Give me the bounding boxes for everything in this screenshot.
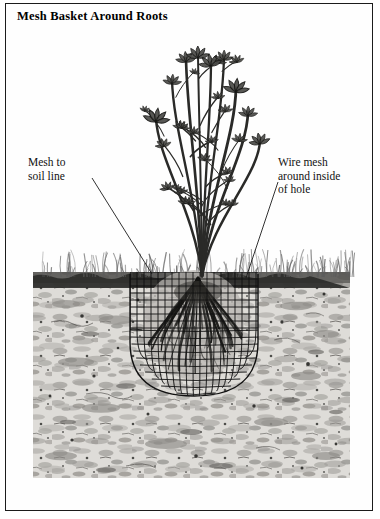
label-line: Mesh to — [28, 156, 65, 170]
label-line: Wire mesh — [278, 156, 340, 170]
label-line: around inside — [278, 170, 340, 184]
leader-line-mesh-to-soil — [92, 178, 152, 274]
label-mesh-to-soil-line: Mesh to soil line — [28, 156, 65, 183]
leader-line-wire-mesh — [246, 182, 278, 278]
label-wire-mesh-around-inside-of-hole: Wire mesh around inside of hole — [278, 156, 340, 197]
illustration — [6, 4, 372, 510]
label-line: soil line — [28, 170, 65, 184]
label-line: of hole — [278, 183, 340, 197]
shrub-plant — [139, 46, 270, 276]
figure-page: Mesh Basket Around Roots — [0, 0, 380, 519]
